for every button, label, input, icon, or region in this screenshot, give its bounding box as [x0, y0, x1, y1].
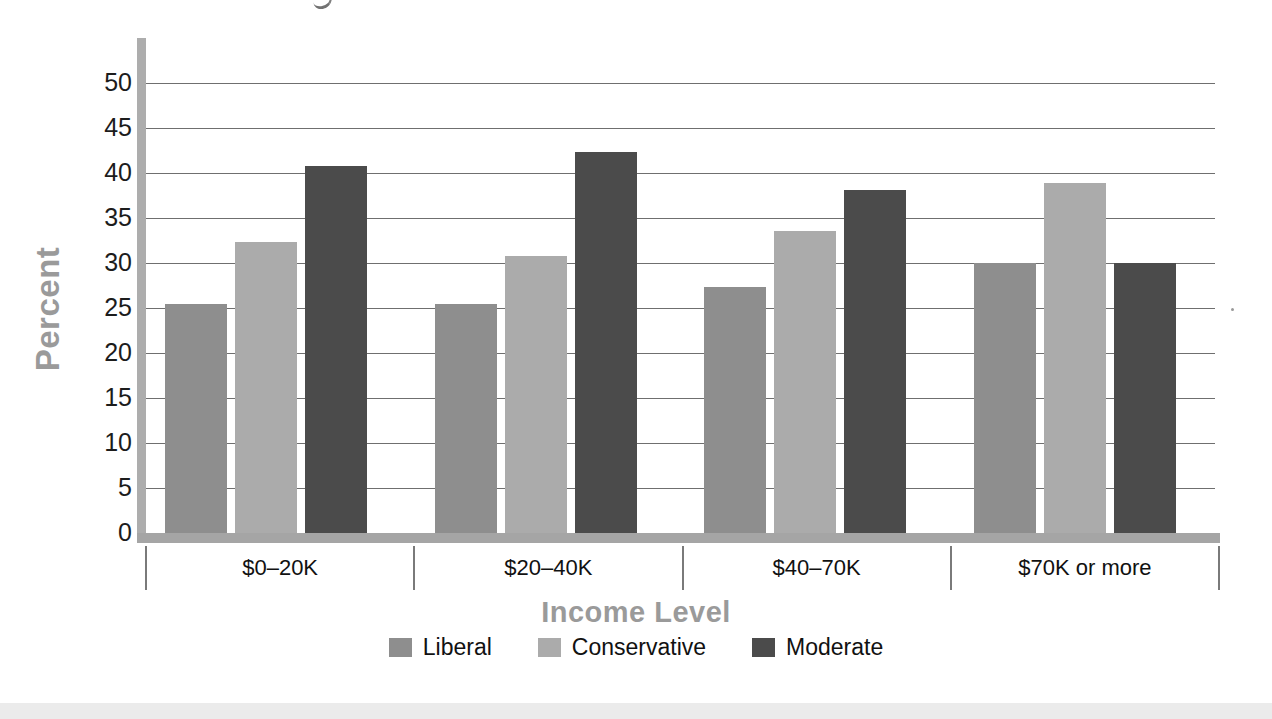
- bar-conservative: [505, 256, 567, 533]
- legend-item-conservative: Conservative: [538, 634, 706, 661]
- y-axis-line: [137, 38, 146, 536]
- y-axis-tick-label: 5: [88, 475, 132, 500]
- legend-swatch-icon: [752, 638, 775, 657]
- y-axis-tick-label: 10: [88, 430, 132, 455]
- y-axis-tick-label: 40: [88, 160, 132, 185]
- x-axis-title: Income Level: [0, 596, 1272, 629]
- legend-swatch-icon: [389, 638, 412, 657]
- bar-moderate: [844, 190, 906, 533]
- scan-speck: [1231, 308, 1234, 311]
- y-axis-tick-label: 25: [88, 295, 132, 320]
- gridline: [137, 173, 1215, 174]
- legend-item-moderate: Moderate: [752, 634, 883, 661]
- bar-liberal: [974, 263, 1036, 533]
- x-axis-line: [137, 533, 1220, 543]
- bar-liberal: [165, 304, 227, 534]
- y-axis-tick-label: 50: [88, 70, 132, 95]
- bar-liberal: [704, 287, 766, 533]
- y-axis-tick-label: 35: [88, 205, 132, 230]
- legend-swatch-icon: [538, 638, 561, 657]
- bar-moderate: [305, 166, 367, 533]
- x-axis-category-label: $70K or more: [950, 546, 1220, 590]
- grouped-bar-chart: Percent 50454035302520151050 $0–20K$20–4…: [0, 0, 1272, 719]
- page-edge-band: [0, 703, 1272, 719]
- bar-conservative: [774, 231, 836, 533]
- legend-label: Liberal: [423, 634, 492, 661]
- y-axis-tick-label: 0: [88, 520, 132, 545]
- x-axis-category-label: $20–40K: [413, 546, 681, 590]
- x-axis-category-label: $0–20K: [145, 546, 413, 590]
- gridline: [137, 83, 1215, 84]
- bar-moderate: [1114, 263, 1176, 533]
- plot-area: [137, 38, 1215, 533]
- bar-liberal: [435, 304, 497, 533]
- y-axis-tick-label: 20: [88, 340, 132, 365]
- cropped-title-descender: [313, 0, 335, 11]
- y-axis-tick-label: 45: [88, 115, 132, 140]
- legend-label: Moderate: [786, 634, 883, 661]
- chart-legend: LiberalConservativeModerate: [0, 634, 1272, 661]
- y-axis-tick-label: 30: [88, 250, 132, 275]
- legend-label: Conservative: [572, 634, 706, 661]
- y-axis-tick-label: 15: [88, 385, 132, 410]
- y-axis-title: Percent: [29, 199, 67, 419]
- x-axis-category-labels: $0–20K$20–40K$40–70K$70K or more: [145, 546, 1220, 590]
- bar-moderate: [575, 152, 637, 533]
- bar-conservative: [235, 242, 297, 533]
- bar-conservative: [1044, 183, 1106, 533]
- gridline: [137, 128, 1215, 129]
- legend-item-liberal: Liberal: [389, 634, 492, 661]
- x-axis-category-label: $40–70K: [682, 546, 950, 590]
